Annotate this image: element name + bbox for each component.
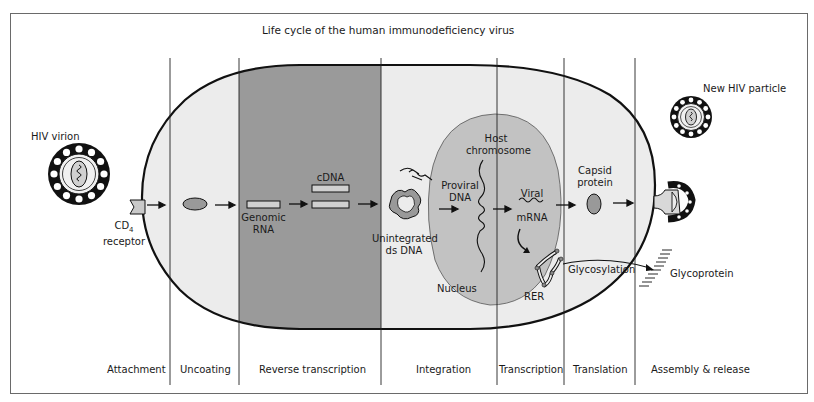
cdna-bar-top [312, 185, 349, 192]
viral-mrna-label-top: Viral [514, 188, 550, 200]
ds-dna-text: ds DNA [386, 245, 423, 256]
cd4-subscript: 4 [129, 226, 133, 234]
protein-text: protein [577, 177, 613, 188]
hiv-virion-icon [48, 143, 110, 205]
cdna-label: cDNA [312, 172, 349, 184]
genomic-rna-bar [247, 201, 280, 208]
viral-core-icon [183, 198, 207, 210]
stage-integration: Integration [416, 364, 471, 375]
stage-reverse-transcription: Reverse transcription [259, 364, 366, 375]
unintegrated-dna-label: Unintegrated ds DNA [372, 233, 436, 257]
cdna-bar-bottom [312, 201, 349, 208]
hiv-lifecycle-diagram [0, 0, 814, 402]
capsid-protein-icon [587, 194, 601, 214]
proviral-dna-label: Proviral DNA [438, 180, 482, 204]
capsid-protein-label: Capsid protein [574, 165, 616, 189]
cd4-receptor-label: CD4 receptor [102, 220, 146, 248]
receptor-text: receptor [103, 236, 145, 247]
unintegrated-text: Unintegrated [372, 233, 438, 244]
stage-assembly-release: Assembly & release [651, 364, 750, 375]
host-text: Host [485, 133, 508, 144]
stage-uncoating: Uncoating [180, 364, 231, 375]
cd4-text: CD [114, 220, 129, 231]
dna-text: DNA [449, 192, 471, 203]
new-hiv-particle-label: New HIV particle [703, 83, 786, 95]
diagram-title: Life cycle of the human immunodeficiency… [262, 24, 514, 36]
glycoprotein-label: Glycoprotein [670, 268, 734, 280]
chromosome-text: chromosome [466, 145, 531, 156]
stage-translation: Translation [573, 364, 628, 375]
stage-attachment: Attachment [107, 364, 166, 375]
genomic-rna-label: Genomic RNA [240, 212, 287, 236]
new-hiv-particle-icon [670, 96, 712, 138]
cd4-receptor-icon [130, 200, 145, 214]
glycoprotein-icon [639, 250, 672, 286]
stage-transcription: Transcription [499, 364, 563, 375]
genomic-text: Genomic [241, 212, 285, 223]
hiv-virion-label: HIV virion [31, 131, 80, 143]
reverse-transcription-region [239, 40, 381, 340]
host-chromosome-label: Host chromosome [466, 133, 526, 157]
glycosylation-label: Glycosylation [568, 264, 635, 276]
rna-text: RNA [253, 224, 274, 235]
viral-mrna-label-bottom: mRNA [514, 212, 550, 224]
capsid-text: Capsid [578, 165, 612, 176]
nucleus-label: Nucleus [437, 283, 477, 295]
budding-particle-icon [654, 184, 692, 219]
proviral-text: Proviral [441, 180, 479, 191]
rer-label: RER [524, 291, 544, 303]
